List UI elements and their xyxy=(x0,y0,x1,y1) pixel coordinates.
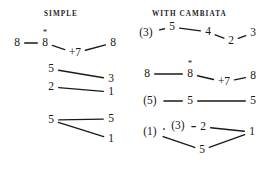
formula-node: (5) xyxy=(143,95,156,107)
formula-node: 8 xyxy=(187,68,193,80)
star-marker-icon: * xyxy=(43,28,48,37)
formula-node: 1 xyxy=(108,133,114,145)
formula-node: 5 xyxy=(108,113,114,125)
formula-node: 8 xyxy=(42,37,48,49)
formula-edge xyxy=(238,36,246,39)
formula-node: 5 xyxy=(48,63,54,75)
formula-node: 1 xyxy=(249,126,255,138)
formula-edge xyxy=(52,45,64,49)
column-header-simple: SIMPLE xyxy=(44,10,78,18)
formula-node: 5 xyxy=(199,144,205,156)
formula-node: (3) xyxy=(139,27,152,39)
formula-node: 5 xyxy=(48,114,54,126)
formula-node: 5 xyxy=(250,95,256,107)
formula-node: 2 xyxy=(200,121,206,133)
column-header-cambiata: WITH CAMBIATA xyxy=(152,10,227,18)
formula-edge xyxy=(59,119,104,120)
formula-edge xyxy=(235,78,246,80)
formula-node: 2 xyxy=(228,35,234,47)
star-marker-icon: * xyxy=(188,59,193,68)
formula-edge xyxy=(215,35,224,38)
formula-node: 8 xyxy=(110,37,116,49)
formula-edge xyxy=(180,28,201,31)
formula-edge xyxy=(59,88,104,92)
formula-node: +7 xyxy=(69,47,81,59)
formula-edge xyxy=(85,45,105,50)
formula-node: 2 xyxy=(48,81,54,93)
formula-node: 8 xyxy=(144,68,150,80)
formula-node: 8 xyxy=(250,70,256,82)
formula-node: 5 xyxy=(169,21,175,33)
formula-edge xyxy=(198,76,214,80)
formula-node: (3) xyxy=(171,120,184,132)
formula-node: 5 xyxy=(187,95,193,107)
formula-node: 8 xyxy=(14,37,20,49)
formula-edge xyxy=(163,137,195,148)
formula-edge xyxy=(58,122,103,136)
formula-node: +7 xyxy=(218,76,230,88)
formula-node: (1) xyxy=(143,126,156,138)
formula-edge xyxy=(209,135,245,148)
formula-node: 3 xyxy=(108,73,114,85)
formula-edge xyxy=(211,128,245,131)
formula-node: 1 xyxy=(108,86,114,98)
formula-node: 3 xyxy=(250,27,256,39)
figure-canvas: SIMPLE WITH CAMBIATA 88*+785321551(3)542… xyxy=(0,0,267,170)
formula-edge xyxy=(59,70,104,77)
formula-edge xyxy=(160,29,165,30)
formula-node: 4 xyxy=(205,26,211,38)
